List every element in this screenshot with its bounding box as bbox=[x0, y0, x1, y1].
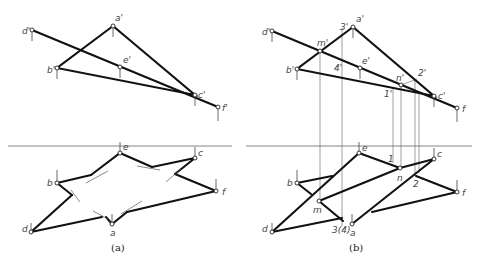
label-a-b: a bbox=[350, 228, 356, 238]
label-d-b: d bbox=[262, 224, 268, 234]
label-1: 1 bbox=[388, 154, 394, 164]
front-view-a bbox=[30, 24, 220, 121]
label-m: m bbox=[313, 205, 322, 215]
ticks-front-b bbox=[272, 27, 457, 122]
label-b-b: b bbox=[287, 178, 293, 188]
label-a: a bbox=[110, 228, 116, 238]
edge-d-e-b bbox=[272, 153, 359, 232]
label-n: n bbox=[397, 173, 403, 183]
label-c: c bbox=[198, 148, 203, 158]
label-f-b-top: f bbox=[462, 104, 467, 114]
edge-2-f-b bbox=[416, 176, 457, 192]
label-3-prime: 3' bbox=[340, 22, 348, 32]
label-d-prime: d' bbox=[22, 26, 30, 36]
label-m-prime: m' bbox=[317, 38, 328, 48]
ticks-front-a bbox=[32, 26, 218, 121]
label-3-4: 3(4) bbox=[332, 225, 350, 235]
label-f: f bbox=[222, 187, 227, 197]
label-c-b: c bbox=[437, 149, 442, 159]
labels-b: d' 3' a' m' b' 4' e' n' 2' 1' c' f e 1 c… bbox=[262, 14, 467, 253]
label-e-prime: e' bbox=[123, 55, 131, 65]
label-a-prime: a' bbox=[115, 13, 123, 23]
label-d: d bbox=[22, 224, 28, 234]
label-e: e bbox=[123, 142, 129, 152]
edge-b-lower-b bbox=[297, 183, 311, 194]
edge-d-b bbox=[31, 195, 72, 232]
label-e-b: e bbox=[362, 143, 368, 153]
label-2: 2 bbox=[413, 179, 419, 189]
label-c-prime: c' bbox=[198, 90, 205, 100]
visibility-marks-a bbox=[71, 166, 181, 219]
label-c-prime-b: c' bbox=[438, 91, 445, 101]
caption-b: (b) bbox=[349, 242, 363, 253]
edge-c-a-b bbox=[352, 159, 434, 224]
edge-b-e bbox=[57, 175, 91, 183]
edge-f-a bbox=[127, 191, 216, 212]
edge-d-a bbox=[31, 217, 102, 232]
label-1-prime: 1' bbox=[384, 89, 392, 99]
edge-e-n-b bbox=[359, 153, 400, 168]
label-b-prime: b' bbox=[47, 65, 55, 75]
edge-e-top bbox=[91, 153, 152, 175]
label-b-prime-b: b' bbox=[286, 65, 294, 75]
panel-b: d' 3' a' m' b' 4' e' n' 2' 1' c' f e 1 c… bbox=[246, 14, 472, 253]
caption-a: (a) bbox=[111, 242, 125, 253]
edge-f-d-b bbox=[372, 192, 457, 212]
top-view-a bbox=[29, 142, 218, 234]
front-view-b bbox=[270, 25, 459, 122]
label-b: b bbox=[47, 178, 53, 188]
label-a-prime-b: a' bbox=[356, 14, 364, 24]
label-f-b: f bbox=[462, 188, 467, 198]
edge-c-f bbox=[175, 174, 216, 191]
edge-a bbox=[106, 212, 127, 224]
points-top-b bbox=[270, 151, 459, 234]
label-n-prime: n' bbox=[396, 73, 404, 83]
edge-c-top bbox=[152, 158, 195, 174]
figure-canvas: d' a' b' e' c' f' e c b f d a (a) bbox=[0, 0, 478, 264]
projection-drawing: d' a' b' e' c' f' e c b f d a (a) bbox=[0, 0, 478, 264]
label-f-prime: f' bbox=[222, 103, 228, 113]
label-d-prime-b: d' bbox=[262, 27, 270, 37]
label-e-prime-b: e' bbox=[362, 56, 370, 66]
panel-a: d' a' b' e' c' f' e c b f d a (a) bbox=[8, 13, 232, 253]
label-2-prime: 2' bbox=[418, 68, 426, 78]
top-view-b bbox=[270, 142, 459, 234]
labels-a: d' a' b' e' c' f' e c b f d a (a) bbox=[22, 13, 228, 253]
edge-b-low bbox=[57, 183, 72, 195]
label-4-prime: 4' bbox=[334, 63, 342, 73]
